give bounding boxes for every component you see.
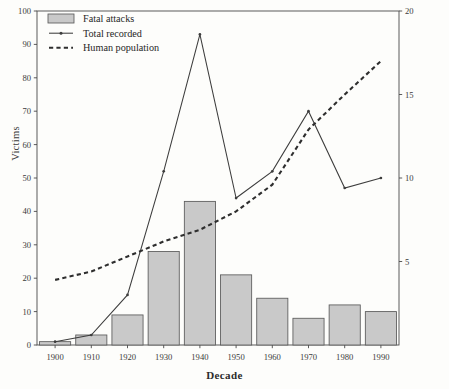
svg-text:1950: 1950 xyxy=(228,352,245,362)
chart-legend: Fatal attacksTotal recordedHuman populat… xyxy=(48,13,159,53)
svg-text:20: 20 xyxy=(405,6,414,16)
bar xyxy=(148,251,179,345)
bar xyxy=(293,318,324,345)
svg-text:Human population: Human population xyxy=(83,42,159,53)
svg-text:100: 100 xyxy=(18,6,31,16)
line-series-human-population xyxy=(55,61,381,280)
bar xyxy=(184,201,215,345)
svg-text:Fatal attacks: Fatal attacks xyxy=(83,13,134,24)
x-axis-ticks: 1900191019201930194019501960197019801990 xyxy=(47,345,390,362)
bar xyxy=(112,315,143,345)
bar xyxy=(257,298,288,345)
legend-swatch-fatal-attacks xyxy=(48,14,74,23)
bar xyxy=(329,305,360,345)
svg-text:0: 0 xyxy=(27,340,31,350)
svg-text:1980: 1980 xyxy=(336,352,353,362)
svg-text:1910: 1910 xyxy=(83,352,100,362)
svg-text:40: 40 xyxy=(22,206,31,216)
y-axis-left-title: Victims xyxy=(10,84,21,204)
bar-series-fatal-attacks xyxy=(40,201,397,345)
svg-text:50: 50 xyxy=(22,173,31,183)
svg-text:10: 10 xyxy=(22,307,31,317)
svg-text:10: 10 xyxy=(405,173,414,183)
svg-text:80: 80 xyxy=(22,73,31,83)
y-axis-left-ticks: 0102030405060708090100 xyxy=(18,6,37,350)
bar xyxy=(221,275,252,345)
y-axis-right-ticks: 5101520 xyxy=(399,6,414,267)
svg-text:1960: 1960 xyxy=(264,352,281,362)
svg-text:1920: 1920 xyxy=(119,352,136,362)
svg-text:30: 30 xyxy=(22,240,31,250)
svg-text:90: 90 xyxy=(22,39,31,49)
svg-text:60: 60 xyxy=(22,140,31,150)
chart-figure: Victims Population in millions Decade 01… xyxy=(0,0,449,389)
svg-text:1940: 1940 xyxy=(191,352,208,362)
svg-text:1970: 1970 xyxy=(300,352,317,362)
x-axis-title: Decade xyxy=(0,369,449,381)
svg-text:70: 70 xyxy=(22,106,31,116)
line-series-total-recorded xyxy=(54,33,383,343)
bar xyxy=(365,312,396,345)
svg-text:1930: 1930 xyxy=(155,352,172,362)
svg-text:5: 5 xyxy=(405,257,409,267)
svg-text:1900: 1900 xyxy=(47,352,64,362)
svg-text:Total recorded: Total recorded xyxy=(83,28,142,39)
chart-plot-area: 0102030405060708090100 5101520 190019101… xyxy=(0,0,449,389)
svg-text:1990: 1990 xyxy=(372,352,389,362)
plot-frame xyxy=(37,11,399,345)
svg-text:15: 15 xyxy=(405,90,414,100)
svg-text:20: 20 xyxy=(22,273,31,283)
